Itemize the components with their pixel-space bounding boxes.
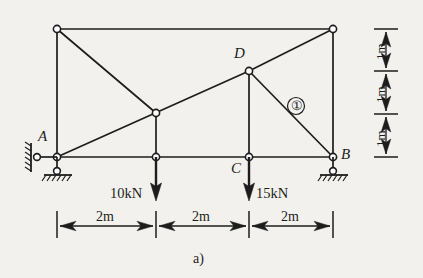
vdim-label-3: 1m xyxy=(374,130,387,147)
truss-members xyxy=(57,29,333,157)
load-label-15kn: 15kN xyxy=(256,186,288,201)
vdim-label-1: 1m xyxy=(374,43,387,60)
vdim-label-2: 1m xyxy=(374,86,387,103)
node-label-b: B xyxy=(341,147,350,162)
node-label-a: A xyxy=(38,129,47,144)
hdim-label-1: 2m xyxy=(96,210,114,224)
load-arrow-15kn xyxy=(244,157,255,201)
member-diagonal-d-b xyxy=(249,71,333,157)
support-a-ground-pin xyxy=(54,168,61,175)
load-label-10kn: 10kN xyxy=(110,186,142,201)
hdim-label-2: 2m xyxy=(192,210,210,224)
support-a xyxy=(25,142,72,181)
load-arrow-10kn xyxy=(151,157,162,201)
support-a-wall-pin xyxy=(34,154,41,161)
joint-e xyxy=(152,109,159,116)
hdim-label-3: 2m xyxy=(281,210,299,224)
truss-diagram xyxy=(0,0,423,278)
member-diagonal-d-tr xyxy=(249,29,333,71)
member-diagonal-tl-e xyxy=(57,29,156,113)
joint-d xyxy=(245,67,252,74)
figure-caption: a) xyxy=(193,252,204,266)
joint-top-right xyxy=(329,25,336,32)
joint-top-left xyxy=(53,25,60,32)
support-b-pin xyxy=(330,168,337,175)
member-number-label: ① xyxy=(291,99,303,112)
node-label-d: D xyxy=(234,46,245,61)
node-label-c: C xyxy=(231,161,241,176)
